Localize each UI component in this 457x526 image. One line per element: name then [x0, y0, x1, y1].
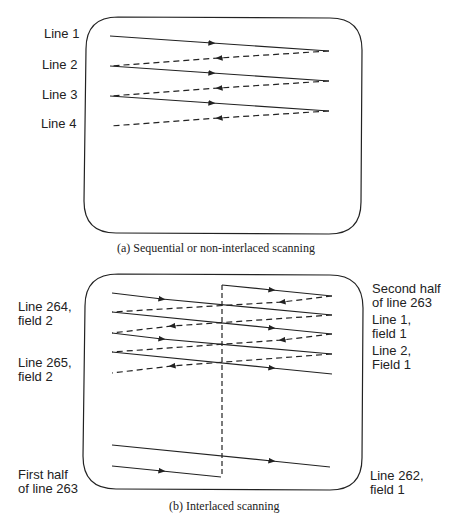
- label-line-1: Line 1: [44, 27, 79, 41]
- label-line-2: Line 2: [42, 58, 77, 72]
- caption-b: (b) Interlaced scanning: [169, 499, 280, 514]
- scanning-diagrams: [0, 0, 457, 526]
- label-line-264: Line 264, field 2: [18, 300, 72, 328]
- label-line-3: Line 3: [42, 88, 77, 102]
- label-first-half-263: First half of line 263: [18, 468, 78, 496]
- label-line-4: Line 4: [41, 117, 76, 131]
- label-line-265: Line 265, field 2: [18, 356, 72, 384]
- screen-frame-a: [84, 17, 362, 234]
- label-line-2-field-1: Line 2, Field 1: [372, 344, 411, 372]
- label-line-1-field-1: Line 1, field 1: [372, 313, 411, 341]
- scan-lines-a: [110, 36, 329, 126]
- label-line-262: Line 262, field 1: [370, 469, 424, 497]
- label-second-half-263: Second half of line 263: [372, 282, 441, 310]
- caption-a: (a) Sequential or non-interlaced scannin…: [117, 241, 315, 256]
- scan-lines-b: [112, 285, 332, 477]
- screen-frame-b: [83, 274, 363, 490]
